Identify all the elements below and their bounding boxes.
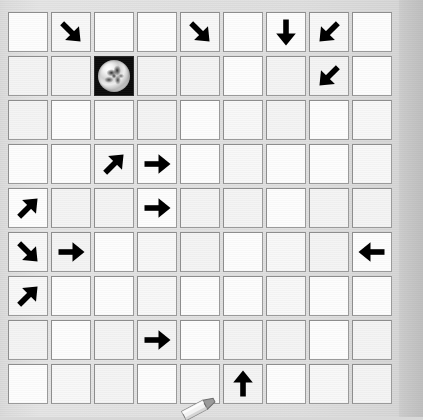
grid-cell-r6-c5[interactable] (180, 232, 220, 272)
grid-cell-r1-c9[interactable] (352, 12, 392, 52)
grid-cell-r7-c3[interactable] (94, 276, 134, 316)
grid-cell-r2-c9[interactable] (352, 56, 392, 96)
grid-cell-r5-c8[interactable] (309, 188, 349, 228)
grid-cell-r6-c7[interactable] (266, 232, 306, 272)
grid-cell-r6-c6[interactable] (223, 232, 263, 272)
grid-cell-r9-c8[interactable] (309, 364, 349, 404)
grid-cell-r4-c8[interactable] (309, 144, 349, 184)
arrow-down-right-icon (183, 15, 217, 49)
grid-cell-r1-c3[interactable] (94, 12, 134, 52)
grid-cell-r2-c1[interactable] (8, 56, 48, 96)
arrow-right-icon (140, 191, 174, 225)
grid-cell-r5-c4[interactable] (137, 188, 177, 228)
marble-mottle (98, 60, 130, 92)
grid-cell-r2-c8[interactable] (309, 56, 349, 96)
grid-cell-r5-c2[interactable] (51, 188, 91, 228)
grid-cell-r4-c3[interactable] (94, 144, 134, 184)
grid-cell-r4-c2[interactable] (51, 144, 91, 184)
grid-cell-r9-c2[interactable] (51, 364, 91, 404)
marble-icon (98, 60, 130, 92)
grid-cell-r9-c7[interactable] (266, 364, 306, 404)
grid-cell-r2-c7[interactable] (266, 56, 306, 96)
grid-cell-r2-c6[interactable] (223, 56, 263, 96)
grid-cell-r5-c1[interactable] (8, 188, 48, 228)
grid-cell-r9-c6[interactable] (223, 364, 263, 404)
grid-cell-r6-c4[interactable] (137, 232, 177, 272)
grid-cell-r8-c4[interactable] (137, 320, 177, 360)
grid-cell-r2-c3[interactable] (94, 56, 134, 96)
grid-cell-r3-c3[interactable] (94, 100, 134, 140)
arrow-right-icon (140, 147, 174, 181)
grid-cell-r1-c2[interactable] (51, 12, 91, 52)
grid-cell-r3-c1[interactable] (8, 100, 48, 140)
grid-cell-r9-c1[interactable] (8, 364, 48, 404)
grid-cell-r6-c1[interactable] (8, 232, 48, 272)
arrow-right-icon (54, 235, 88, 269)
arrow-up-right-icon (11, 191, 45, 225)
grid-cell-r7-c8[interactable] (309, 276, 349, 316)
grid-cell-r4-c4[interactable] (137, 144, 177, 184)
grid-cell-r8-c8[interactable] (309, 320, 349, 360)
grid-cell-r8-c2[interactable] (51, 320, 91, 360)
arrow-left-icon (355, 235, 389, 269)
grid-cell-r8-c5[interactable] (180, 320, 220, 360)
grid-cell-r4-c9[interactable] (352, 144, 392, 184)
grid-cell-r8-c3[interactable] (94, 320, 134, 360)
arrow-up-icon (226, 367, 260, 401)
grid-cell-r5-c6[interactable] (223, 188, 263, 228)
grid-cell-r5-c9[interactable] (352, 188, 392, 228)
arrow-grid (8, 12, 392, 404)
grid-cell-r1-c7[interactable] (266, 12, 306, 52)
grid-cell-r8-c9[interactable] (352, 320, 392, 360)
grid-cell-r8-c6[interactable] (223, 320, 263, 360)
arrow-down-icon (269, 15, 303, 49)
arrow-down-right-icon (11, 235, 45, 269)
board-right-margin (399, 0, 423, 417)
grid-cell-r6-c8[interactable] (309, 232, 349, 272)
grid-cell-r2-c2[interactable] (51, 56, 91, 96)
arrow-down-left-icon (312, 59, 346, 93)
grid-cell-r1-c5[interactable] (180, 12, 220, 52)
grid-cell-r1-c4[interactable] (137, 12, 177, 52)
grid-cell-r7-c9[interactable] (352, 276, 392, 316)
arrow-down-left-icon (312, 15, 346, 49)
grid-cell-r1-c1[interactable] (8, 12, 48, 52)
grid-cell-r1-c6[interactable] (223, 12, 263, 52)
grid-cell-r3-c7[interactable] (266, 100, 306, 140)
grid-cell-r5-c3[interactable] (94, 188, 134, 228)
grid-cell-r8-c1[interactable] (8, 320, 48, 360)
grid-cell-r2-c5[interactable] (180, 56, 220, 96)
grid-cell-r8-c7[interactable] (266, 320, 306, 360)
grid-cell-r7-c4[interactable] (137, 276, 177, 316)
stylus-eraser-token[interactable] (176, 396, 222, 420)
grid-cell-r1-c8[interactable] (309, 12, 349, 52)
grid-cell-r4-c1[interactable] (8, 144, 48, 184)
arrow-up-right-icon (11, 279, 45, 313)
grid-cell-r7-c1[interactable] (8, 276, 48, 316)
grid-cell-r3-c6[interactable] (223, 100, 263, 140)
grid-cell-r7-c7[interactable] (266, 276, 306, 316)
grid-cell-r2-c4[interactable] (137, 56, 177, 96)
grid-cell-r9-c4[interactable] (137, 364, 177, 404)
grid-cell-r4-c6[interactable] (223, 144, 263, 184)
grid-cell-r6-c3[interactable] (94, 232, 134, 272)
grid-cell-r5-c7[interactable] (266, 188, 306, 228)
grid-cell-r3-c8[interactable] (309, 100, 349, 140)
arrow-right-icon (140, 323, 174, 357)
grid-cell-r6-c9[interactable] (352, 232, 392, 272)
grid-cell-r3-c9[interactable] (352, 100, 392, 140)
grid-cell-r9-c3[interactable] (94, 364, 134, 404)
grid-cell-r3-c2[interactable] (51, 100, 91, 140)
grid-cell-r4-c7[interactable] (266, 144, 306, 184)
grid-cell-r3-c4[interactable] (137, 100, 177, 140)
grid-cell-r7-c2[interactable] (51, 276, 91, 316)
grid-cell-r7-c6[interactable] (223, 276, 263, 316)
arrow-down-right-icon (54, 15, 88, 49)
grid-cell-r4-c5[interactable] (180, 144, 220, 184)
grid-cell-r5-c5[interactable] (180, 188, 220, 228)
grid-cell-r9-c9[interactable] (352, 364, 392, 404)
grid-cell-r7-c5[interactable] (180, 276, 220, 316)
arrow-up-right-icon (97, 147, 131, 181)
grid-cell-r6-c2[interactable] (51, 232, 91, 272)
grid-cell-r3-c5[interactable] (180, 100, 220, 140)
